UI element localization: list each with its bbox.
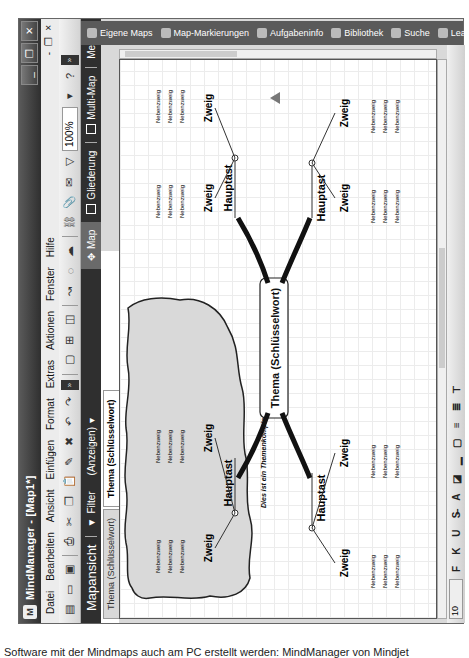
topic-boundary xyxy=(125,298,252,598)
line-color-icon[interactable]: ▁ xyxy=(448,453,464,469)
toolbar-grip[interactable]: » xyxy=(61,55,79,65)
task-tab-label: Map-Markierungen xyxy=(174,28,250,38)
copy-icon[interactable]: ❐ xyxy=(61,492,79,510)
doc-close-button[interactable]: × xyxy=(43,25,54,31)
toolbar-separator xyxy=(62,555,78,556)
menu-format[interactable]: Format xyxy=(45,393,56,435)
italic-button[interactable]: K xyxy=(448,543,464,559)
doc-restore-button[interactable]: ❐ xyxy=(43,37,54,46)
task-tab-search[interactable]: Suche xyxy=(391,28,430,38)
toolbar-grip[interactable]: » xyxy=(61,380,79,390)
paste-icon[interactable]: 📋 xyxy=(61,472,79,490)
scroll-thumb[interactable] xyxy=(125,51,237,57)
document-window-controls: - ❐ × xyxy=(43,25,54,55)
minimize-button[interactable]: _ xyxy=(21,65,38,85)
task-tab-map-markers[interactable]: Map-Markierungen xyxy=(161,28,250,38)
markers-icon xyxy=(161,28,171,38)
leaf-label: Nebenzweig xyxy=(155,90,161,123)
cut-icon[interactable]: ✂ xyxy=(61,512,79,530)
doc-minimize-button[interactable]: - xyxy=(43,52,54,55)
topic-shape-icon[interactable]: ▢ xyxy=(448,435,464,451)
view-tab-multimap[interactable]: Multi-Map xyxy=(86,68,97,142)
subtopic-label: Zweig xyxy=(339,184,350,212)
subtopic-label: Zweig xyxy=(203,424,214,452)
filter-button[interactable]: ▼ Filter xyxy=(86,483,97,535)
doc-tab-2[interactable]: Thema (Schlüsselwort) xyxy=(103,390,119,507)
print-icon[interactable]: ⎙ xyxy=(61,532,79,550)
undo-icon[interactable]: ↶ xyxy=(61,412,79,430)
view-tab-label: Map xyxy=(86,230,97,249)
map-canvas[interactable]: Dies ist ein Themenkomplex Thema (Schlüs… xyxy=(119,59,437,619)
menu-datei[interactable]: Datei xyxy=(45,586,56,619)
new-map-icon[interactable]: ▤ xyxy=(61,601,79,619)
connector-upper-right xyxy=(238,218,268,283)
show-dropdown[interactable]: (Anzeigen) ▾ xyxy=(86,410,97,483)
filter-icon[interactable]: ▽ xyxy=(61,153,79,171)
align-left-icon[interactable]: ≡ xyxy=(448,417,464,433)
font-color-icon[interactable]: A xyxy=(448,489,464,505)
scroll-thumb[interactable] xyxy=(439,248,445,368)
task-tab-my-maps[interactable]: Eigene Maps xyxy=(87,28,153,38)
notes-icon[interactable]: ✉ xyxy=(61,173,79,191)
view-tab-label: Gliederung xyxy=(86,151,97,200)
align-center-icon[interactable]: ≣ xyxy=(448,399,464,415)
strikethrough-icon[interactable]: S̶ xyxy=(448,507,464,523)
menu-ansicht[interactable]: Ansicht xyxy=(45,484,56,527)
leaf-label: Nebenzweig xyxy=(394,555,400,588)
view-tab-map[interactable]: ✥ Map xyxy=(81,222,101,269)
insert-subtopic-icon[interactable]: ⊞ xyxy=(61,331,79,349)
font-size-select[interactable]: 10 xyxy=(449,579,463,619)
task-tab-label: Learning Center xyxy=(451,28,469,38)
insert-topic-icon[interactable]: ▢ xyxy=(61,351,79,369)
library-icon xyxy=(331,28,341,38)
menu-extras[interactable]: Extras xyxy=(45,355,56,393)
close-button[interactable]: ✕ xyxy=(21,21,38,41)
bold-button[interactable]: F xyxy=(448,561,464,577)
search-icon xyxy=(391,28,401,38)
horizontal-scrollbar[interactable] xyxy=(437,59,447,619)
view-tab-outline[interactable]: Gliederung xyxy=(86,143,97,222)
vertical-scrollbar[interactable] xyxy=(119,49,437,59)
format-painter-icon[interactable]: ✎ xyxy=(61,452,79,470)
leaf-label: Nebenzweig xyxy=(382,555,388,588)
map-icon: ✥ xyxy=(86,253,97,261)
floating-topic-icon[interactable]: ◫ xyxy=(61,311,79,329)
leaf-label: Nebenzweig xyxy=(394,445,400,478)
underline-button[interactable]: U xyxy=(448,525,464,541)
zoom-dropdown-icon[interactable]: ▾ xyxy=(61,87,79,105)
task-tab-task-info[interactable]: Aufgabeninfo xyxy=(257,28,323,38)
multimap-icon xyxy=(86,124,96,134)
zoom-field[interactable]: 100% xyxy=(62,107,78,151)
hyperlink-icon[interactable]: ⛓ xyxy=(61,213,79,231)
leaf-label: Nebenzweig xyxy=(167,540,173,573)
leaf-label: Nebenzweig xyxy=(155,430,161,463)
leaf-label: Nebenzweig xyxy=(179,90,185,123)
menu-einfuegen[interactable]: Einfügen xyxy=(45,435,56,484)
boundary-icon[interactable]: ◌ xyxy=(61,262,79,280)
menu-bearbeiten[interactable]: Bearbeiten xyxy=(45,527,56,585)
save-icon[interactable]: ▣ xyxy=(61,561,79,579)
task-tab-label: Bibliothek xyxy=(344,28,383,38)
fill-color-icon[interactable]: ◪ xyxy=(448,471,464,487)
redo-icon[interactable]: ↷ xyxy=(61,392,79,410)
callout-icon[interactable]: ☁ xyxy=(61,242,79,260)
restore-button[interactable]: ❐ xyxy=(21,43,38,63)
leaf-label: Nebenzweig xyxy=(394,190,400,223)
attachment-icon[interactable]: 📎 xyxy=(61,193,79,211)
leaf-label: Nebenzweig xyxy=(370,100,376,133)
relationship-icon[interactable]: ↝ xyxy=(61,282,79,300)
help-icon[interactable]: ? xyxy=(61,67,79,85)
delete-icon[interactable]: ✖ xyxy=(61,432,79,450)
task-tab-library[interactable]: Bibliothek xyxy=(331,28,383,38)
menu-fenster[interactable]: Fenster xyxy=(45,262,56,306)
window-controls: _ ❐ ✕ xyxy=(21,21,38,85)
menu-aktionen[interactable]: Aktionen xyxy=(45,306,56,355)
menu-hilfe[interactable]: Hilfe xyxy=(45,232,56,262)
open-icon[interactable]: ▭ xyxy=(61,581,79,599)
outline-icon xyxy=(86,204,96,214)
layout-icon[interactable]: ⊤ xyxy=(448,381,464,397)
view-bar: Mapansicht ▼ Filter (Anzeigen) ▾ ✥ Map G… xyxy=(81,19,101,623)
doc-tab-1[interactable]: Thema (Schlüsselwort) xyxy=(103,509,119,619)
leaf-label: Nebenzweig xyxy=(155,185,161,218)
task-tab-learning-center[interactable]: Learning Center xyxy=(438,28,469,38)
